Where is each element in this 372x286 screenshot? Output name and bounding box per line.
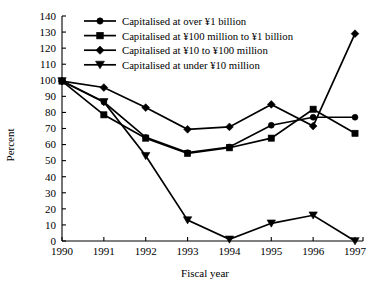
- data-point: [352, 114, 358, 120]
- x-tick-label: 1996: [302, 245, 325, 257]
- data-point: [351, 30, 359, 38]
- legend-item-1: Capitalised at over ¥1 billion: [84, 15, 247, 27]
- data-point: [184, 150, 190, 156]
- data-point: [268, 122, 274, 128]
- data-point: [268, 135, 274, 141]
- legend-item-3: Capitalised at ¥10 to ¥100 million: [84, 44, 268, 56]
- y-tick-label: 30: [45, 187, 57, 199]
- x-tick-label: 1993: [177, 245, 200, 257]
- data-point: [310, 114, 316, 120]
- y-tick-label: 100: [40, 74, 57, 86]
- y-axis-title: Percent: [4, 129, 16, 162]
- y-tick-label: 140: [40, 10, 57, 22]
- y-tick-label: 70: [45, 122, 57, 134]
- x-axis-title: Fiscal year: [181, 267, 229, 279]
- x-tick-label: 1990: [51, 245, 74, 257]
- y-tick-label: 90: [45, 90, 57, 102]
- legend-marker-icon: [96, 46, 104, 54]
- legend-label: Capitalised at under ¥10 million: [122, 59, 260, 71]
- x-tick-label: 1997: [344, 245, 367, 257]
- data-point: [309, 122, 317, 130]
- y-tick-label: 120: [40, 42, 57, 54]
- y-axis: 0102030405060708090100110120130140: [40, 10, 67, 247]
- y-tick-label: 40: [45, 171, 57, 183]
- data-point: [184, 125, 192, 133]
- data-point: [183, 217, 191, 224]
- data-point: [352, 130, 358, 136]
- legend-label: Capitalised at ¥10 to ¥100 million: [122, 44, 268, 56]
- y-tick-label: 80: [45, 106, 57, 118]
- data-point: [142, 104, 150, 112]
- x-tick-label: 1994: [218, 245, 241, 257]
- series-4: [58, 78, 359, 245]
- legend-label: Capitalised at ¥100 million to ¥1 billio…: [122, 30, 294, 42]
- chart-legend: Capitalised at over ¥1 billionCapitalise…: [84, 15, 294, 71]
- data-point: [226, 123, 234, 131]
- legend-item-2: Capitalised at ¥100 million to ¥1 billio…: [84, 30, 294, 42]
- data-point: [143, 135, 149, 141]
- data-point: [100, 84, 108, 92]
- data-point: [225, 236, 233, 243]
- y-tick-label: 60: [45, 138, 57, 150]
- x-axis: 19901991199219931994199519961997: [51, 237, 367, 257]
- y-tick-label: 130: [40, 26, 57, 38]
- y-tick-label: 20: [45, 203, 57, 215]
- legend-marker-icon: [97, 18, 103, 24]
- line-chart: 0102030405060708090100110120130140 19901…: [0, 0, 372, 286]
- legend-item-4: Capitalised at under ¥10 million: [84, 59, 260, 71]
- data-point: [226, 145, 232, 151]
- legend-marker-icon: [97, 32, 104, 39]
- y-tick-label: 10: [45, 219, 57, 231]
- chart-container: 0102030405060708090100110120130140 19901…: [0, 0, 372, 286]
- data-point: [101, 112, 107, 118]
- x-tick-label: 1995: [260, 245, 283, 257]
- y-tick-label: 110: [40, 58, 57, 70]
- data-point: [310, 106, 316, 112]
- legend-label: Capitalised at over ¥1 billion: [122, 15, 247, 27]
- data-point: [267, 101, 275, 109]
- x-tick-label: 1991: [93, 245, 115, 257]
- data-point: [142, 152, 150, 159]
- y-tick-label: 50: [45, 154, 57, 166]
- x-tick-label: 1992: [135, 245, 157, 257]
